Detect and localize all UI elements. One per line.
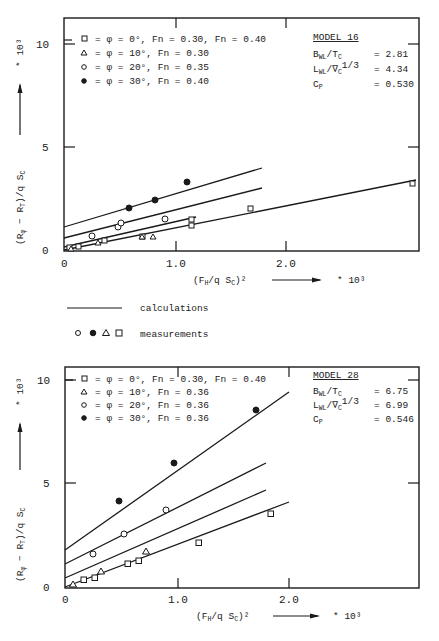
point-circle <box>90 551 96 557</box>
legend: = φ = 0°, Fn = 0.30, Fn = 0.40 = φ = 10°… <box>64 34 266 87</box>
legend-filled-circle-icon <box>82 416 87 421</box>
legend-entry: = φ = 0°, Fn = 0.30, Fn = 0.40 <box>95 34 266 45</box>
legend: = φ = 0°, Fn = 0.30, Fn = 0.40 = φ = 10°… <box>65 374 266 424</box>
point-filled-circle <box>126 205 132 211</box>
calc-line-phi-0 <box>64 180 416 250</box>
point-square <box>81 577 87 583</box>
point-triangle <box>98 568 105 574</box>
y-tick-label: 5 <box>42 142 49 154</box>
x-tick-label: 2.0 <box>276 258 296 270</box>
svg-text:* 10³: * 10³ <box>15 38 26 67</box>
point-triangle <box>150 234 156 239</box>
measurements-label: measurements <box>140 329 208 340</box>
y-tick-label: 0 <box>42 245 49 257</box>
svg-text:(FH/q SC)²: (FH/q SC)² <box>193 275 246 287</box>
param-label: CP <box>313 414 323 426</box>
y-tick-label: 10 <box>37 375 50 387</box>
point-square <box>92 575 98 581</box>
param-label: BWL/TC <box>313 49 342 61</box>
point-square <box>136 558 142 564</box>
legend-circle-icon <box>82 403 87 408</box>
svg-text:* 10³: * 10³ <box>15 377 26 406</box>
legend-triangle-icon <box>81 50 87 55</box>
chart-model28: 10 5 0 0 1.0 2.0 <box>15 367 419 623</box>
param-label: CP <box>313 79 323 91</box>
shared-legend: calculations measurements <box>67 303 208 340</box>
legend-circle-icon <box>82 65 87 70</box>
filled-circle-icon <box>90 330 96 336</box>
x-tick-label: 1.0 <box>166 258 186 270</box>
legend-filled-circle-icon <box>82 79 87 84</box>
point-square <box>268 511 274 517</box>
legend-square-icon <box>82 36 87 41</box>
point-square <box>102 238 107 243</box>
svg-text:* 10³: * 10³ <box>337 275 366 286</box>
svg-text:* 10³: * 10³ <box>333 611 362 622</box>
figure: 10 5 0 0 1.0 2.0 <box>0 0 439 641</box>
measurement-points <box>70 407 274 587</box>
model-title: MODEL 16 <box>313 32 359 43</box>
svg-text:(Rφ − RT)/q SC: (Rφ − RT)/q SC <box>15 507 27 582</box>
param-label: LWL/∇C1/3 <box>313 60 359 76</box>
calculation-lines <box>64 168 416 250</box>
x-tick-label: 0 <box>61 258 68 270</box>
y-axis-label: (Rφ − RT)/q SC * 10³ <box>15 38 27 245</box>
point-circle <box>89 233 95 239</box>
model-info: MODEL 28 BWL/TC = 6.75 LWL/∇C1/3 = 6.99 … <box>313 370 414 426</box>
point-square <box>189 223 194 228</box>
param-label: LWL/∇C1/3 <box>313 396 359 412</box>
legend-entry: = φ = 0°, Fn = 0.30, Fn = 0.40 <box>95 374 266 385</box>
legend-entry: = φ = 30°, Fn = 0.36 <box>95 413 209 424</box>
param-label: BWL/TC <box>313 386 342 398</box>
svg-text:(FH/q SC)²: (FH/q SC)² <box>196 611 249 623</box>
point-square <box>189 217 194 222</box>
legend-entry: = φ = 10°, Fn = 0.30 <box>95 48 209 59</box>
model-info: MODEL 16 BWL/TC = 2.81 LWL/∇C1/3 = 4.34 … <box>313 32 414 91</box>
point-filled-circle <box>116 498 122 504</box>
point-circle <box>163 507 169 513</box>
calc-line-phi-10 <box>65 490 266 578</box>
legend-square-icon <box>82 376 87 381</box>
point-circle <box>118 220 124 226</box>
legend-entry: = φ = 20°, Fn = 0.35 <box>95 62 209 73</box>
legend-entry: = φ = 30°, Fn = 0.40 <box>95 76 209 87</box>
param-value: = 0.546 <box>374 414 414 425</box>
chart-model16: 10 5 0 0 1.0 2.0 <box>15 18 419 287</box>
param-value: = 0.530 <box>374 79 414 90</box>
y-tick-label: 0 <box>43 582 50 594</box>
open-circle-icon <box>76 331 81 336</box>
x-axis-label: (FH/q SC)² * 10³ <box>196 611 362 623</box>
y-tick-label: 10 <box>36 39 49 51</box>
point-square <box>248 206 253 211</box>
y-axis-label: (Rφ − RT)/q SC * 10³ <box>15 377 27 582</box>
point-circle <box>162 216 168 222</box>
x-tick-label: 0 <box>62 594 69 606</box>
svg-text:(Rφ − RT)/q SC: (Rφ − RT)/q SC <box>15 170 27 245</box>
point-square <box>76 244 81 249</box>
param-value: = 6.75 <box>374 386 409 397</box>
square-icon <box>116 330 122 336</box>
calculations-label: calculations <box>140 303 208 314</box>
point-filled-circle <box>184 179 190 185</box>
y-tick-label: 5 <box>43 478 50 490</box>
point-square <box>125 561 131 567</box>
point-square <box>410 181 415 186</box>
point-circle <box>121 531 127 537</box>
point-filled-circle <box>253 407 259 413</box>
point-triangle <box>70 581 77 587</box>
triangle-icon <box>103 330 110 336</box>
legend-triangle-icon <box>81 389 87 394</box>
point-triangle <box>143 548 150 554</box>
point-filled-circle <box>171 460 177 466</box>
legend-entry: = φ = 10°, Fn = 0.36 <box>95 387 209 398</box>
param-value: = 6.99 <box>374 400 409 411</box>
y-ticks <box>64 44 419 147</box>
point-filled-circle <box>152 197 158 203</box>
param-value: = 4.34 <box>374 64 409 75</box>
x-tick-label: 1.0 <box>168 594 188 606</box>
point-square <box>196 540 202 546</box>
x-tick-label: 2.0 <box>279 594 299 606</box>
model-title: MODEL 28 <box>313 370 359 381</box>
param-value: = 2.81 <box>374 49 409 60</box>
x-axis-label: (FH/q SC)² * 10³ <box>193 275 366 287</box>
